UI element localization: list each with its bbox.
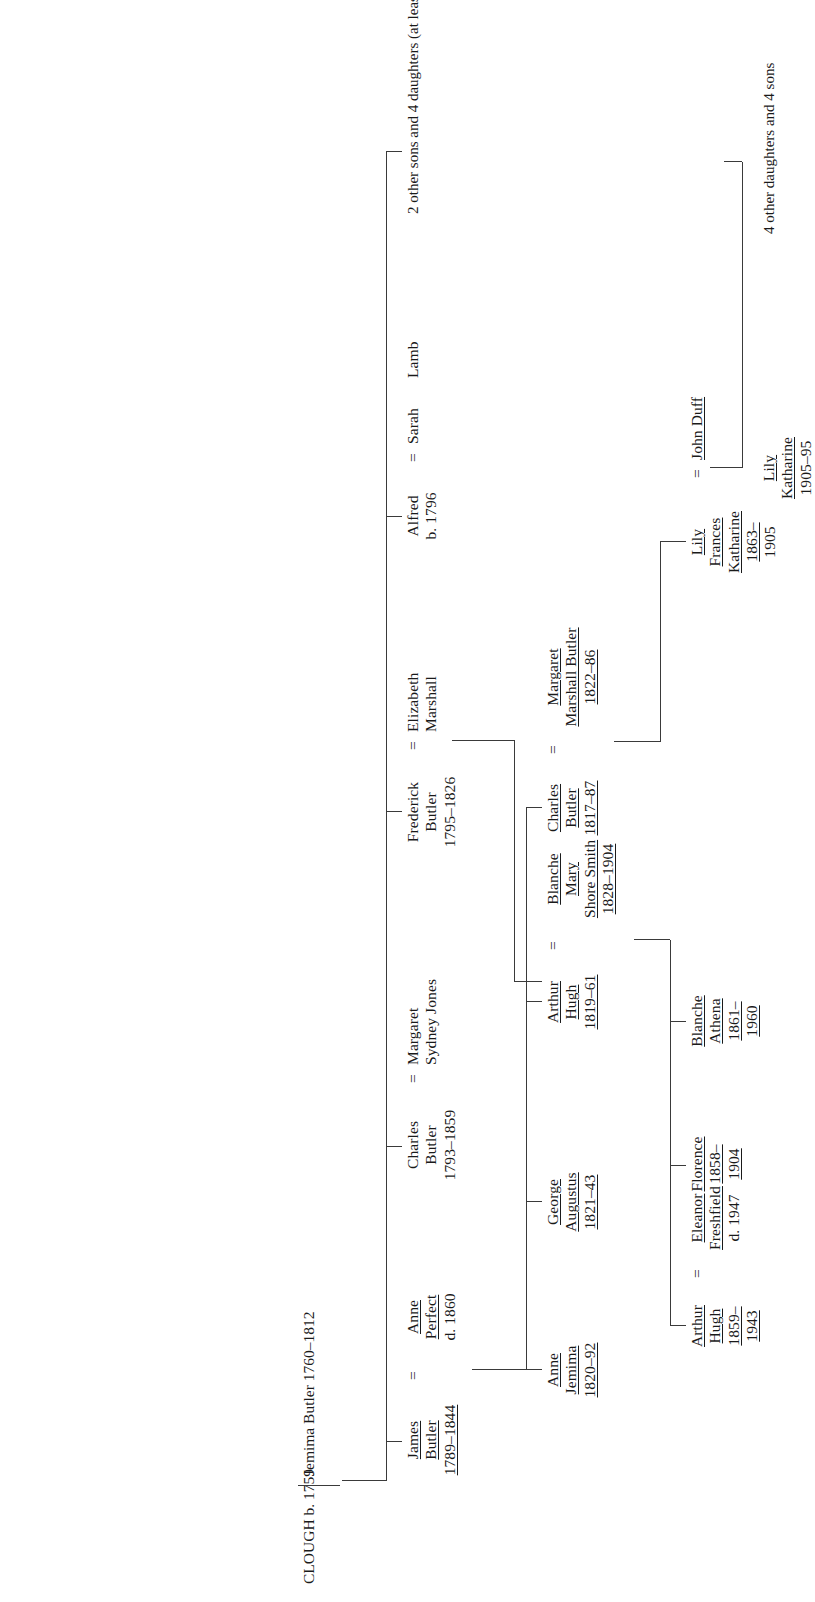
root-spouse-line1: Jemima (300, 1428, 317, 1476)
person-george-augustus: George Augustus 1821–43 (544, 1150, 599, 1254)
arthur-hugh-3: 1819–61 (581, 958, 599, 1046)
florence-3: 1904 (725, 1118, 743, 1210)
elizabeth-marshall-1: Elizabeth (404, 673, 422, 732)
sarah-lamb-1: Sarah (404, 408, 422, 444)
lily-katharine-3: 1905–95 (797, 416, 815, 520)
george-augustus-3: 1821–43 (581, 1150, 599, 1254)
root-couple: CLOUGH b. 1759 (300, 1469, 318, 1584)
blanche-athena-3: 1861– (725, 976, 743, 1066)
gen3-tick-arthur-jr (670, 1325, 686, 1326)
spouse-margaret-sydney-jones: Margaret Sydney Jones (404, 979, 441, 1065)
lily-katharine-1: Lily (760, 416, 778, 520)
sarah-lamb-2: Lamb (404, 341, 422, 378)
root-spouse: Jemima Butler 1760–1812 (300, 1312, 318, 1476)
gen2-sibling-spine (526, 808, 527, 1370)
james-marriage-symbol: = (404, 1371, 422, 1380)
blanche-athena-2: Athena (706, 976, 724, 1066)
florence-1: Florence (688, 1118, 706, 1210)
lily-fk-1: Lily (688, 490, 706, 594)
arthur-hugh-1: Arthur (544, 958, 562, 1046)
gen1-sibling-spine (386, 151, 387, 1481)
blanche-ss-4: 1828–1904 (599, 824, 617, 934)
arthur-jr-3: 1859– (725, 1284, 743, 1368)
alfred-marriage-symbol: = (404, 453, 422, 462)
frederick-name-2: Butler (422, 758, 440, 866)
note-siblings-3: (at least) (405, 0, 421, 39)
charles1-name-2: Butler (422, 1093, 440, 1197)
lily-fk-2: Frances (706, 490, 724, 594)
gen1-tick-charles (386, 1146, 402, 1147)
charles1-name-3: 1793–1859 (441, 1093, 459, 1197)
margaret-mb-2: Marshall Butler (562, 616, 580, 738)
charles1-name-1: Charles (404, 1093, 422, 1197)
gen1-tick-alfred (386, 516, 402, 517)
gen1-tick-james (386, 1441, 402, 1442)
person-alfred: Alfred b. 1796 (404, 470, 441, 562)
person-charles-butler-1817: Charles Butler 1817–87 (544, 762, 599, 854)
spouse-sarah-lamb-surname: Lamb (404, 341, 422, 378)
note-siblings-1: 2 other sons (405, 142, 421, 215)
arthur-jr-1: Arthur (688, 1284, 706, 1368)
person-lily-katharine: Lily Katharine 1905–95 (760, 416, 815, 520)
margaret-marshall-uplink (514, 981, 542, 982)
gen2-tick-charles (526, 807, 542, 808)
lily-fk-4: 1863– (743, 490, 761, 594)
arthur-hugh-marriage-symbol: = (544, 941, 562, 950)
charles2-marriage-symbol: = (544, 745, 562, 754)
gen1-tick-frederick (386, 811, 402, 812)
gen3-sibling-spine (670, 940, 671, 1326)
gen2-tick-arthur (526, 1001, 542, 1002)
charles-to-lily-link (660, 542, 661, 742)
charles2-name-3: 1817–87 (581, 762, 599, 854)
elizabeth-marshall-2: Marshall (422, 673, 440, 732)
anne-perfect-3: d. 1860 (441, 1272, 459, 1362)
root-surname: CLOUGH (300, 1519, 317, 1584)
alfred-name-1: Alfred (404, 470, 422, 562)
person-charles-butler-1793: Charles Butler 1793–1859 (404, 1093, 459, 1197)
anne-perfect-2: Perfect (422, 1272, 440, 1362)
george-augustus-1: George (544, 1150, 562, 1254)
anne-jemima-2: Jemima (562, 1324, 580, 1416)
margaret-sj-2: Sydney Jones (422, 979, 440, 1065)
root-marriage-bar (298, 1485, 340, 1486)
person-arthur-hugh-jr: Arthur Hugh 1859– 1943 (688, 1284, 761, 1368)
person-james-butler: James Butler 1789–1844 (404, 1390, 459, 1490)
duff-tick-lily-katharine (724, 467, 742, 468)
frederick-name-1: Frederick (404, 758, 422, 866)
charles-margaret-descent (614, 741, 660, 742)
gen1-tick-others (386, 151, 402, 152)
person-blanche-athena: Blanche Athena 1861– 1960 (688, 976, 761, 1066)
margaret-mb-1: Margaret (544, 616, 562, 738)
spouse-anne-perfect: Anne Perfect d. 1860 (404, 1272, 459, 1362)
florence-2: 1858– (706, 1118, 724, 1210)
charles2-name-2: Butler (562, 762, 580, 854)
arthur-jr-marriage-symbol: = (688, 1269, 706, 1278)
frederick-couple-descent (452, 740, 514, 741)
duff-children-spine (742, 162, 743, 468)
james-name-2: Butler (422, 1390, 440, 1490)
gen2-tick-george (526, 1201, 542, 1202)
lily-fk-marriage-symbol: = (688, 469, 706, 478)
spouse-elizabeth-marshall: Elizabeth Marshall (404, 673, 441, 732)
person-florence: Florence 1858– 1904 (688, 1118, 743, 1210)
note-duff-other-children: 4 other daughters and 4 sons (760, 63, 778, 234)
root-descent-line (342, 1480, 386, 1481)
frederick-marriage-symbol: = (404, 741, 422, 750)
note-other-siblings: 2 other sons and 4 daughters (at least) (404, 0, 422, 214)
anne-jemima-1: Anne (544, 1324, 562, 1416)
spouse-sarah-lamb: Sarah (404, 408, 422, 444)
john-duff-1: John Duff (688, 397, 706, 460)
lily-katharine-2: Katharine (778, 416, 796, 520)
blanche-athena-1: Blanche (688, 976, 706, 1066)
root-born: b. 1759 (300, 1469, 317, 1516)
arthur-blanche-descent (634, 939, 670, 940)
alfred-name-2: b. 1796 (422, 470, 440, 562)
frederick-name-3: 1795–1826 (441, 758, 459, 866)
anne-jemima-3: 1820–92 (581, 1324, 599, 1416)
root-spouse-line2: Butler 1760–1812 (300, 1312, 317, 1424)
gen2-tick-anne-jemima (526, 1369, 542, 1370)
spouse-john-duff: John Duff (688, 397, 706, 460)
james-name-1: James (404, 1390, 422, 1490)
